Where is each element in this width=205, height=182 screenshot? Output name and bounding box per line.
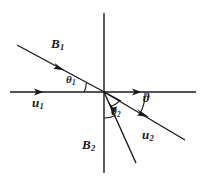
vartheta-label: ϑ <box>143 92 149 104</box>
theta1-label-sub: 1 <box>72 79 76 87</box>
b1-ray-arrowhead <box>53 63 65 71</box>
theta1-label: θ1 <box>66 74 76 87</box>
u1-label-sub: 1 <box>39 101 44 111</box>
b2-label: B2 <box>82 138 95 153</box>
figure-container: B1 B2 u1 u2 θ1 θ2 ϑ <box>0 0 205 182</box>
b2-label-sub: 2 <box>91 143 96 153</box>
b2-ray <box>104 92 136 163</box>
theta2-label: θ2 <box>111 106 121 119</box>
figure-canvas <box>0 0 205 182</box>
b1-label-base: B <box>51 36 60 51</box>
b1-label-sub: 1 <box>60 42 65 52</box>
theta1-arc <box>84 83 86 92</box>
b1-label: B1 <box>51 37 64 52</box>
b2-label-base: B <box>82 137 91 152</box>
theta2-label-sub: 2 <box>117 111 121 119</box>
theta2-label-base: θ <box>111 105 117 117</box>
theta1-label-base: θ <box>66 73 72 85</box>
u1-label: u1 <box>32 96 44 111</box>
u2-label-sub: 2 <box>149 133 154 143</box>
vartheta-label-base: ϑ <box>143 91 149 105</box>
u2-label: u2 <box>142 128 154 143</box>
